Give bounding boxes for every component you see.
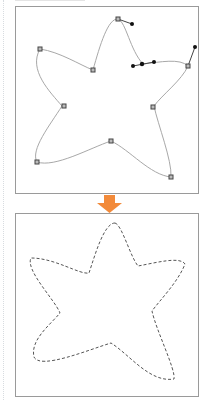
star-path[interactable] [36,19,188,177]
down-arrow-icon [97,195,122,213]
star-canvas [0,0,211,400]
dashed-star-path [30,223,185,379]
anchor-points[interactable] [35,17,190,179]
